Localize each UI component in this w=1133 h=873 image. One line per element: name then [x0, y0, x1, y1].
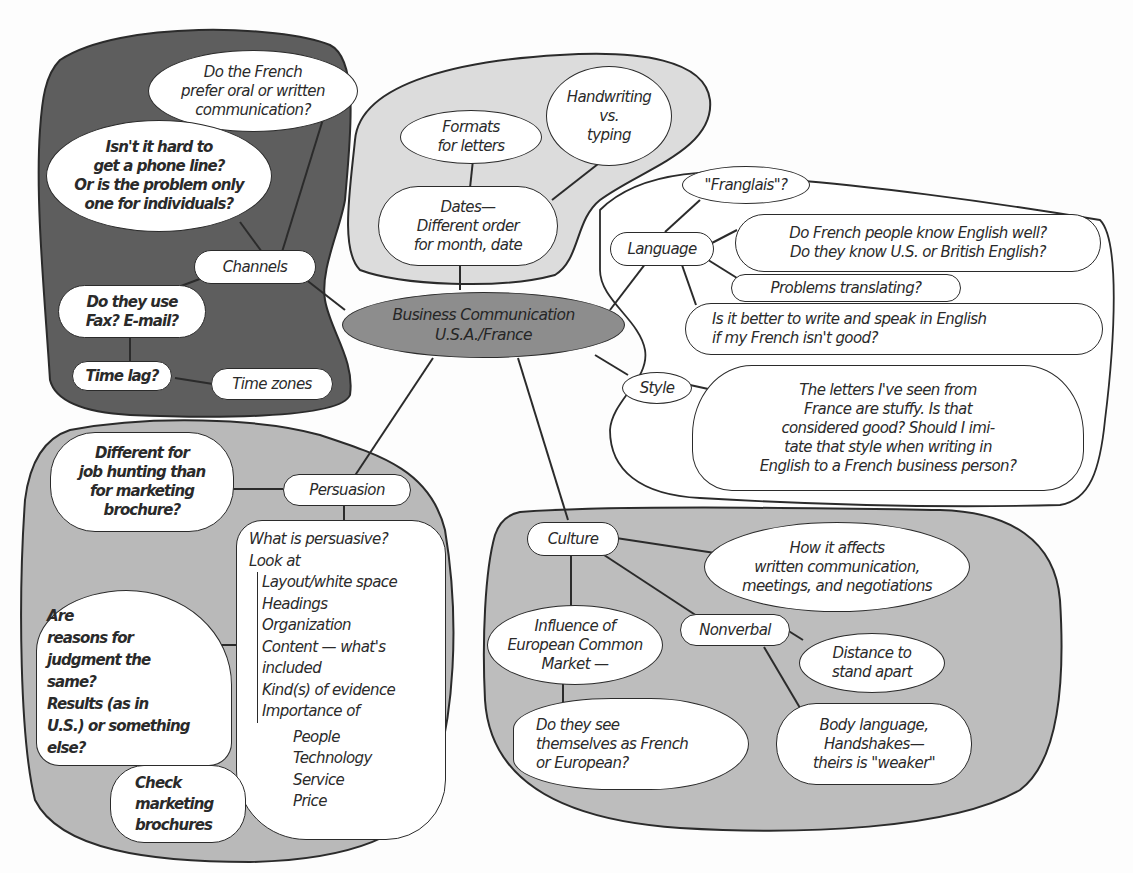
node-distance-to-stand-apart: Distance to stand apart	[799, 633, 945, 693]
node-style: Style	[622, 372, 692, 404]
importance-item: People	[293, 727, 437, 749]
node-time-zones: Time zones	[211, 368, 333, 400]
node-know-english-text: Do French people know English well? Do t…	[789, 224, 1046, 262]
mind-map-canvas: Business Communication U.S.A./France Do …	[0, 0, 1133, 873]
node-fax-email: Do they use Fax? E-mail?	[58, 285, 206, 338]
node-distance-to-stand-apart-text: Distance to stand apart	[832, 644, 912, 682]
node-phone-line: Isn't it hard to get a phone line? Or is…	[46, 120, 272, 232]
node-letters-stuffy: The letters I've seen from France are st…	[692, 365, 1084, 491]
importance-of-list: People Technology Service Price	[293, 727, 437, 813]
node-channels: Channels	[194, 250, 316, 284]
node-formats-for-letters: Formats for letters	[400, 110, 542, 164]
node-language: Language	[610, 232, 714, 266]
node-nonverbal-text: Nonverbal	[699, 621, 771, 640]
node-time-zones-text: Time zones	[232, 375, 312, 394]
node-dates-text: Dates— Different order for month, date	[414, 198, 522, 255]
node-body-language: Body language, Handshakes— theirs is "we…	[776, 703, 972, 785]
node-french-or-european: Do they see themselves as French or Euro…	[513, 698, 749, 790]
node-channels-text: Channels	[223, 258, 288, 277]
node-time-lag: Time lag?	[72, 361, 172, 391]
node-body-language-text: Body language, Handshakes— theirs is "we…	[813, 716, 935, 773]
node-handwriting-vs-typing: Handwriting vs. typing	[546, 66, 672, 166]
node-european-common-market-text: Influence of European Common Market —	[507, 617, 642, 674]
look-at-item: Importance of	[262, 701, 437, 723]
node-job-hunting-text: Different for job hunting than for marke…	[79, 444, 206, 520]
node-formats-for-letters-text: Formats for letters	[437, 118, 504, 156]
look-at-item: Kind(s) of evidence	[262, 680, 437, 702]
node-nonverbal: Nonverbal	[680, 614, 790, 646]
node-culture-text: Culture	[548, 530, 599, 549]
central-topic-line1: Business Communication	[392, 305, 574, 325]
node-persuasion: Persuasion	[283, 474, 411, 506]
node-dates: Dates— Different order for month, date	[378, 186, 558, 266]
node-handwriting-vs-typing-text: Handwriting vs. typing	[567, 88, 652, 145]
node-franglais-text: "Franglais"?	[705, 176, 788, 195]
node-better-english-text: Is it better to write and speak in Engli…	[712, 310, 986, 348]
look-at-item: Headings	[262, 594, 437, 616]
node-check-brochures-text: Check marketing brochures	[135, 773, 213, 836]
look-at-item: included	[262, 658, 437, 680]
importance-item: Technology	[293, 748, 437, 770]
node-oral-or-written: Do the French prefer oral or written com…	[148, 50, 358, 132]
node-problems-translating-text: Problems translating?	[771, 279, 922, 298]
node-how-it-affects-text: How it affects written communication, me…	[742, 539, 932, 596]
node-reasons-for-judgment-text: Are reasons for judgment the same? Resul…	[47, 605, 190, 759]
node-style-text: Style	[640, 379, 675, 398]
importance-item: Price	[293, 791, 437, 813]
look-at-heading: Look at	[249, 551, 437, 573]
node-letters-stuffy-text: The letters I've seen from France are st…	[760, 381, 1017, 476]
node-check-brochures: Check marketing brochures	[110, 765, 246, 843]
node-better-english: Is it better to write and speak in Engli…	[685, 303, 1103, 355]
node-job-hunting: Different for job hunting than for marke…	[50, 432, 234, 532]
node-time-lag-text: Time lag?	[85, 367, 158, 386]
node-phone-line-text: Isn't it hard to get a phone line? Or is…	[74, 138, 243, 214]
look-at-item: Organization	[262, 615, 437, 637]
node-fax-email-text: Do they use Fax? E-mail?	[86, 293, 179, 331]
look-at-item: Layout/white space	[262, 572, 437, 594]
node-oral-or-written-text: Do the French prefer oral or written com…	[181, 63, 325, 120]
node-persuasion-text: Persuasion	[309, 481, 385, 500]
what-persuasive-heading: What is persuasive?	[249, 529, 437, 551]
look-at-list: Layout/white space Headings Organization…	[257, 572, 437, 723]
node-culture: Culture	[527, 522, 619, 556]
node-problems-translating: Problems translating?	[731, 274, 961, 302]
importance-item: Service	[293, 770, 437, 792]
node-french-or-european-text: Do they see themselves as French or Euro…	[536, 716, 688, 773]
node-language-text: Language	[627, 240, 696, 259]
look-at-item: Content — what's	[262, 637, 437, 659]
node-how-it-affects: How it affects written communication, me…	[704, 522, 970, 612]
central-topic-line2: U.S.A./France	[435, 325, 532, 345]
node-european-common-market: Influence of European Common Market —	[487, 605, 663, 685]
central-topic-node: Business Communication U.S.A./France	[342, 292, 625, 358]
node-what-is-persuasive: What is persuasive? Look at Layout/white…	[236, 520, 446, 840]
node-franglais: "Franglais"?	[682, 166, 810, 204]
node-know-english: Do French people know English well? Do t…	[735, 214, 1101, 272]
